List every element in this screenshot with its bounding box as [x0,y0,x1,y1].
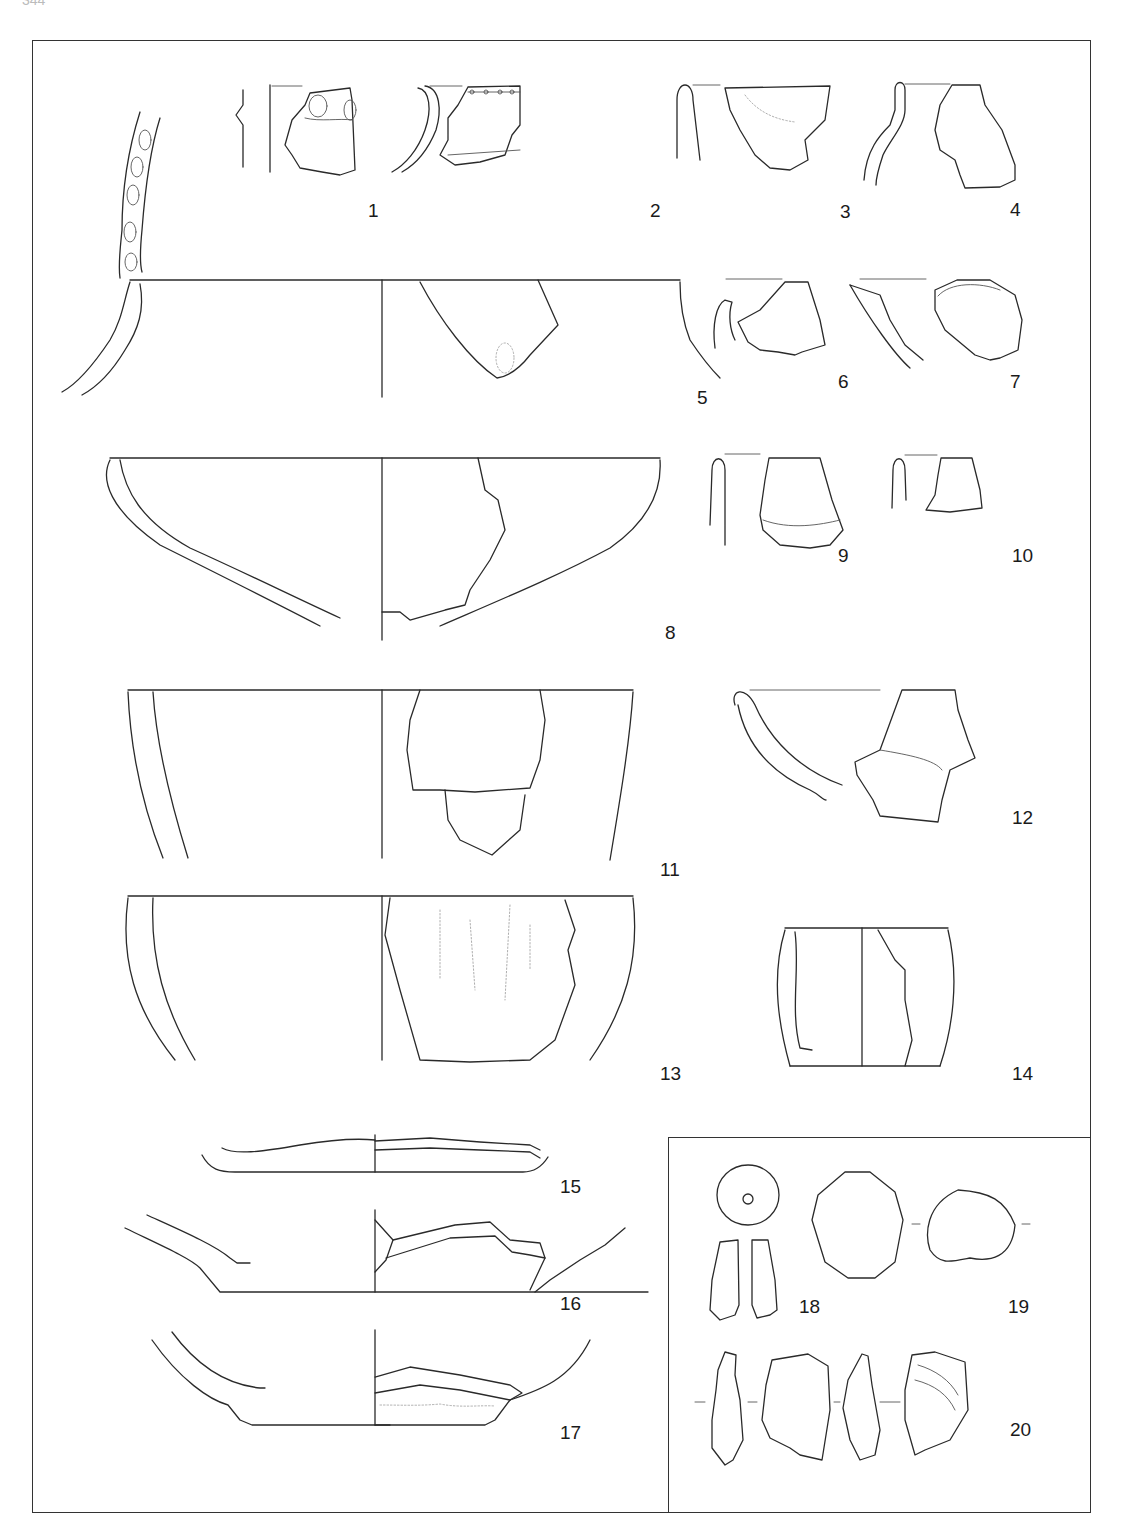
figure-label-20: 20 [1010,1420,1031,1439]
drawing-14 [777,928,954,1066]
impressed-band-drawing [119,112,160,278]
drawing-5 [62,280,720,397]
figure-label-4: 4 [1010,200,1021,219]
drawing-8 [107,458,661,640]
drawing-12 [734,690,975,822]
figure-label-11: 11 [660,860,680,879]
drawing-1 [236,85,356,175]
drawing-3 [677,85,830,170]
figure-label-16: 16 [560,1294,581,1313]
drawing-18-spindle-whorl [710,1165,779,1320]
figure-label-17: 17 [560,1423,581,1442]
figure-label-19: 19 [1008,1297,1029,1316]
figure-label-14: 14 [1012,1064,1033,1083]
figure-label-13: 13 [660,1064,681,1083]
figure-label-3: 3 [840,202,851,221]
figure-label-18: 18 [799,1297,820,1316]
drawing-2 [392,86,520,172]
figure-label-2: 2 [650,201,661,220]
figure-label-6: 6 [838,372,849,391]
figure-label-15: 15 [560,1177,581,1196]
drawing-6 [714,279,825,355]
drawing-17 [152,1330,590,1425]
figure-label-8: 8 [665,623,676,642]
drawing-11 [128,690,633,860]
drawing-13 [126,896,635,1062]
drawing-16 [125,1210,648,1292]
drawing-7 [850,279,1022,368]
drawing-15 [202,1135,548,1172]
drawing-4 [864,83,1015,189]
figure-label-10: 10 [1012,546,1033,565]
drawing-20-lithics [695,1352,968,1465]
figure-label-1: 1 [368,201,379,220]
drawing-19-stone [812,1172,1030,1278]
figure-label-12: 12 [1012,808,1033,827]
figure-label-5: 5 [697,388,708,407]
figure-label-7: 7 [1010,372,1021,391]
drawing-9 [710,454,843,548]
drawing-10 [892,455,982,512]
figure-label-9: 9 [838,546,849,565]
